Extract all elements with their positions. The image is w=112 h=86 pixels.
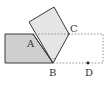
- geometry-diagram: A B C D: [0, 0, 112, 86]
- point-d-dot: [87, 62, 90, 65]
- label-c: C: [70, 23, 78, 34]
- label-b: B: [49, 67, 56, 78]
- label-a: A: [26, 38, 35, 49]
- label-d: D: [85, 67, 93, 78]
